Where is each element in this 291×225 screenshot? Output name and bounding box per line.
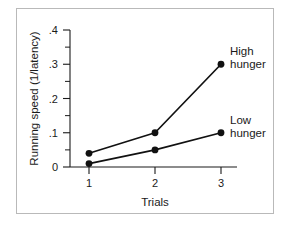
figure-container: 0 .1 .2 .3 .4 1 2 3 Trials Running speed…: [0, 0, 291, 225]
data-point: [218, 61, 225, 68]
series-label-line2: hunger: [230, 127, 266, 139]
data-point: [218, 129, 225, 136]
series-label-line2: hunger: [230, 58, 266, 70]
y-tick-label: .4: [49, 24, 58, 36]
data-point: [86, 150, 93, 157]
x-tick-label: 1: [86, 177, 92, 189]
y-tick-label: .3: [49, 58, 58, 70]
x-axis-title: Trials: [141, 196, 169, 208]
series-high-hunger: [86, 61, 225, 157]
y-axis-title: Running speed (1/latency): [28, 31, 40, 165]
series-line-high-hunger: [89, 64, 221, 153]
x-tick-label: 3: [218, 177, 224, 189]
series-label-high-hunger: High hunger: [230, 45, 266, 70]
y-tick-label: .2: [49, 93, 58, 105]
series-label-line1: High: [230, 45, 254, 57]
data-point: [152, 146, 159, 153]
y-axis-major-ticks: [63, 30, 70, 167]
x-axis-tick-labels: 1 2 3: [86, 177, 224, 189]
series-label-low-hunger: Low hunger: [230, 114, 266, 139]
y-tick-label: .1: [49, 127, 58, 139]
axes-group: [70, 30, 237, 167]
series-label-line1: Low: [230, 114, 252, 126]
y-axis-tick-labels: 0 .1 .2 .3 .4: [49, 24, 58, 173]
data-point: [152, 129, 159, 136]
x-axis-ticks: [89, 167, 221, 174]
y-tick-label: 0: [52, 161, 58, 173]
line-chart: 0 .1 .2 .3 .4 1 2 3 Trials Running speed…: [0, 0, 291, 225]
data-point: [86, 160, 93, 167]
x-tick-label: 2: [152, 177, 158, 189]
